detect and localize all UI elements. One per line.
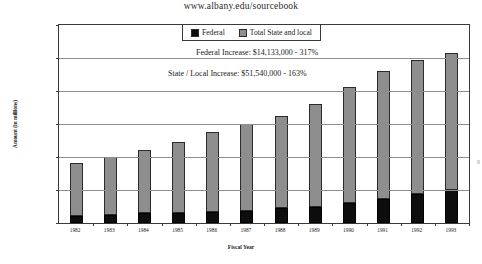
x-tick-mark [264,223,265,226]
bar-segment-federal[interactable] [138,213,151,223]
x-tick-label: 1986 [206,227,217,233]
x-tick-mark [367,223,368,226]
x-tick-label: 1988 [275,227,286,233]
bar-segment-state-local[interactable] [445,53,458,190]
annotation-state-local-increase: State / Local Increase: $51,540,000 - 16… [168,69,307,78]
bar-segment-federal[interactable] [309,207,322,223]
bar-segment-federal[interactable] [377,199,390,223]
y-tick-mark [56,124,59,125]
bar-segment-federal[interactable] [104,215,117,223]
x-tick-mark [298,223,299,226]
gridline [59,190,469,191]
y-tick-mark [56,190,59,191]
x-axis-title: Fiscal Year [0,244,482,250]
chart-container: www.albany.edu/sourcebook Amount (in mil… [0,0,482,264]
y-axis-title: Amount (in millions) [12,100,18,148]
legend-label-federal: Federal [202,28,225,37]
bar-segment-state-local[interactable] [411,60,424,194]
legend-label-state-local: Total State and local [250,28,312,37]
gridline [59,157,469,158]
x-tick-mark [93,223,94,226]
bar-segment-state-local[interactable] [309,104,322,207]
x-tick-mark [230,223,231,226]
gridline [59,58,469,59]
x-tick-mark [332,223,333,226]
bar-segment-federal[interactable] [172,213,185,223]
bar-segment-state-local[interactable] [275,116,288,208]
legend-swatch-federal-icon [191,29,199,37]
x-tick-label: 1987 [241,227,252,233]
bar-segment-state-local[interactable] [240,124,253,211]
x-tick-mark [127,223,128,226]
annotation-federal-increase: Federal Increase: $14,133,000 - 317% [196,48,318,57]
x-tick-label: 1992 [411,227,422,233]
x-tick-mark [162,223,163,226]
x-tick-label: 1982 [70,227,81,233]
legend: Federal Total State and local [182,24,321,41]
bar-segment-federal[interactable] [70,216,83,223]
bar-group[interactable] [411,60,424,223]
y-tick-mark [56,91,59,92]
bar-segment-federal[interactable] [343,203,356,223]
x-tick-label: 1993 [446,227,457,233]
bar-group[interactable] [206,132,219,223]
bar-group[interactable] [343,87,356,223]
bar-segment-state-local[interactable] [343,87,356,203]
scan-artifact [477,160,480,164]
x-tick-label: 1991 [377,227,388,233]
x-tick-label: 1989 [309,227,320,233]
y-tick-mark [56,223,59,224]
bar-group[interactable] [138,150,151,223]
bar-segment-federal[interactable] [240,211,253,223]
x-tick-mark [196,223,197,226]
x-tick-label: 1990 [343,227,354,233]
bar-segment-federal[interactable] [445,190,458,223]
x-tick-label: 1985 [172,227,183,233]
bar-segment-state-local[interactable] [138,150,151,214]
bar-segment-federal[interactable] [206,212,219,223]
bar-group[interactable] [172,142,185,223]
bar-segment-federal[interactable] [411,194,424,223]
x-tick-mark [401,223,402,226]
page-title: www.albany.edu/sourcebook [0,1,482,11]
bar-group[interactable] [377,71,390,223]
bar-group[interactable] [445,53,458,223]
legend-item-federal: Federal [191,28,225,37]
x-tick-label: 1983 [104,227,115,233]
x-tick-mark [469,223,470,226]
bar-group[interactable] [309,104,322,223]
x-tick-mark [435,223,436,226]
x-tick-label: 1984 [138,227,149,233]
y-tick-mark [56,157,59,158]
bar-segment-state-local[interactable] [104,157,117,215]
bar-group[interactable] [240,124,253,223]
bar-segment-state-local[interactable] [172,142,185,213]
y-tick-mark [56,25,59,26]
bar-group[interactable] [275,116,288,223]
legend-item-state-local: Total State and local [239,28,312,37]
gridline [59,124,469,125]
legend-swatch-state-local-icon [239,29,247,37]
y-tick-mark [56,58,59,59]
bar-segment-state-local[interactable] [206,132,219,212]
bar-group[interactable] [70,163,83,223]
bar-segment-federal[interactable] [275,208,288,223]
gridline [59,91,469,92]
